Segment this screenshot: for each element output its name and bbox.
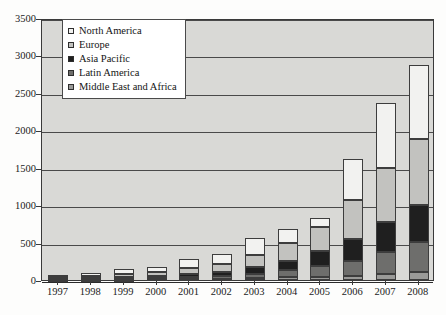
- x-tick-mark-1998: [90, 281, 91, 285]
- y-tick-label-500: 500: [2, 239, 36, 250]
- legend-swatch-latin-america-icon: [68, 70, 74, 76]
- bar-segment-2005-asia-pacific[interactable]: [310, 251, 330, 266]
- x-tick-mark-2003: [254, 281, 255, 285]
- bar-segment-2003-asia-pacific[interactable]: [245, 267, 265, 273]
- x-tick-label-2005: 2005: [303, 287, 336, 298]
- bar-stack-2004[interactable]: [278, 18, 298, 280]
- bar-segment-2007-middle-east-and-africa[interactable]: [376, 274, 396, 280]
- bar-segment-1998-europe[interactable]: [81, 276, 101, 278]
- legend-item-asia-pacific[interactable]: Asia Pacific: [68, 52, 180, 66]
- bar-segment-1998-north-america[interactable]: [81, 273, 101, 276]
- bar-segment-2003-middle-east-and-africa[interactable]: [245, 278, 265, 280]
- bar-stack-2007[interactable]: [376, 18, 396, 280]
- legend-item-middle-east-and-africa[interactable]: Middle East and Africa: [68, 80, 180, 94]
- bar-segment-2008-north-america[interactable]: [409, 65, 429, 138]
- x-tick-mark-2000: [156, 281, 157, 285]
- bar-segment-2006-north-america[interactable]: [343, 159, 363, 199]
- y-tick-label-1500: 1500: [2, 164, 36, 175]
- x-tick-mark-2005: [319, 281, 320, 285]
- bar-segment-2008-middle-east-and-africa[interactable]: [409, 272, 429, 280]
- bar-segment-2005-europe[interactable]: [310, 227, 330, 251]
- bar-segment-2005-north-america[interactable]: [310, 218, 330, 227]
- x-tick-label-1998: 1998: [74, 287, 107, 298]
- bar-segment-2005-middle-east-and-africa[interactable]: [310, 277, 330, 280]
- y-tick-label-1000: 1000: [2, 201, 36, 212]
- x-tick-label-1999: 1999: [107, 287, 140, 298]
- chart-figure: 0500100015002000250030003500 19971998199…: [0, 0, 446, 315]
- bar-segment-2004-asia-pacific[interactable]: [278, 261, 298, 271]
- x-tick-label-2007: 2007: [369, 287, 402, 298]
- bar-segment-1999-north-america[interactable]: [114, 269, 134, 274]
- bar-segment-2007-latin-america[interactable]: [376, 252, 396, 274]
- legend-item-europe[interactable]: Europe: [68, 38, 180, 52]
- bar-segment-2007-north-america[interactable]: [376, 103, 396, 167]
- bar-stack-2006[interactable]: [343, 18, 363, 280]
- legend-swatch-north-america-icon: [68, 28, 74, 34]
- x-tick-mark-1997: [57, 281, 58, 285]
- bar-segment-2004-north-america[interactable]: [278, 229, 298, 243]
- x-tick-mark-2001: [188, 281, 189, 285]
- bar-segment-2003-europe[interactable]: [245, 255, 265, 267]
- bar-segment-2000-europe[interactable]: [147, 272, 167, 276]
- bar-segment-2006-middle-east-and-africa[interactable]: [343, 276, 363, 280]
- legend-label: Asia Pacific: [79, 54, 130, 65]
- x-tick-label-2008: 2008: [401, 287, 434, 298]
- bar-segment-2002-europe[interactable]: [212, 264, 232, 272]
- bar-segment-2002-latin-america[interactable]: [212, 276, 232, 279]
- y-tick-label-3000: 3000: [2, 51, 36, 62]
- bar-segment-2000-north-america[interactable]: [147, 267, 167, 272]
- bar-segment-2005-latin-america[interactable]: [310, 266, 330, 276]
- legend-label: Middle East and Africa: [79, 82, 177, 93]
- bar-stack-2003[interactable]: [245, 18, 265, 280]
- bar-segment-2004-europe[interactable]: [278, 243, 298, 260]
- bar-segment-2002-middle-east-and-africa[interactable]: [212, 279, 232, 281]
- gridline-0: [42, 282, 433, 283]
- bar-stack-2005[interactable]: [310, 18, 330, 280]
- legend-swatch-asia-pacific-icon: [68, 56, 74, 62]
- bar-segment-2002-asia-pacific[interactable]: [212, 272, 232, 276]
- bar-segment-2007-europe[interactable]: [376, 168, 396, 222]
- legend-item-latin-america[interactable]: Latin America: [68, 66, 180, 80]
- y-tick-label-3500: 3500: [2, 14, 36, 25]
- bar-segment-1999-asia-pacific[interactable]: [114, 277, 134, 279]
- x-tick-mark-2006: [352, 281, 353, 285]
- bar-segment-2006-latin-america[interactable]: [343, 261, 363, 276]
- bar-segment-2006-europe[interactable]: [343, 200, 363, 239]
- bar-segment-2003-north-america[interactable]: [245, 238, 265, 255]
- bar-segment-2001-asia-pacific[interactable]: [179, 274, 199, 277]
- bar-segment-1997-north-america[interactable]: [48, 275, 68, 278]
- bar-segment-2000-latin-america[interactable]: [147, 278, 167, 280]
- x-tick-mark-2007: [385, 281, 386, 285]
- x-tick-mark-2002: [221, 281, 222, 285]
- bar-segment-2008-europe[interactable]: [409, 139, 429, 206]
- bar-segment-2002-north-america[interactable]: [212, 254, 232, 264]
- bar-segment-2007-asia-pacific[interactable]: [376, 222, 396, 252]
- bar-segment-2008-latin-america[interactable]: [409, 242, 429, 272]
- bar-segment-2006-asia-pacific[interactable]: [343, 239, 363, 261]
- bar-stack-2008[interactable]: [409, 18, 429, 280]
- x-tick-mark-2008: [418, 281, 419, 285]
- y-tick-label-0: 0: [2, 276, 36, 287]
- bar-segment-2004-latin-america[interactable]: [278, 270, 298, 277]
- bar-segment-2001-north-america[interactable]: [179, 259, 199, 268]
- bar-segment-2001-latin-america[interactable]: [179, 277, 199, 279]
- legend-swatch-europe-icon: [68, 42, 74, 48]
- bar-segment-2001-middle-east-and-africa[interactable]: [179, 279, 199, 281]
- bar-stack-2002[interactable]: [212, 18, 232, 280]
- y-tick-label-2000: 2000: [2, 126, 36, 137]
- x-tick-label-2001: 2001: [172, 287, 205, 298]
- chart-legend: North AmericaEuropeAsia PacificLatin Ame…: [62, 19, 186, 99]
- bar-segment-2001-europe[interactable]: [179, 268, 199, 274]
- x-tick-label-2003: 2003: [238, 287, 271, 298]
- bar-segment-2004-middle-east-and-africa[interactable]: [278, 277, 298, 280]
- x-tick-label-2006: 2006: [336, 287, 369, 298]
- bar-segment-1999-europe[interactable]: [114, 274, 134, 277]
- bar-segment-1997-europe[interactable]: [48, 277, 68, 279]
- bar-segment-2008-asia-pacific[interactable]: [409, 205, 429, 242]
- bar-segment-1998-asia-pacific[interactable]: [81, 278, 101, 280]
- bar-segment-2003-latin-america[interactable]: [245, 274, 265, 278]
- legend-swatch-middle-east-and-africa-icon: [68, 84, 74, 90]
- y-tick-label-2500: 2500: [2, 89, 36, 100]
- legend-item-north-america[interactable]: North America: [68, 24, 180, 38]
- bar-segment-2000-asia-pacific[interactable]: [147, 276, 167, 278]
